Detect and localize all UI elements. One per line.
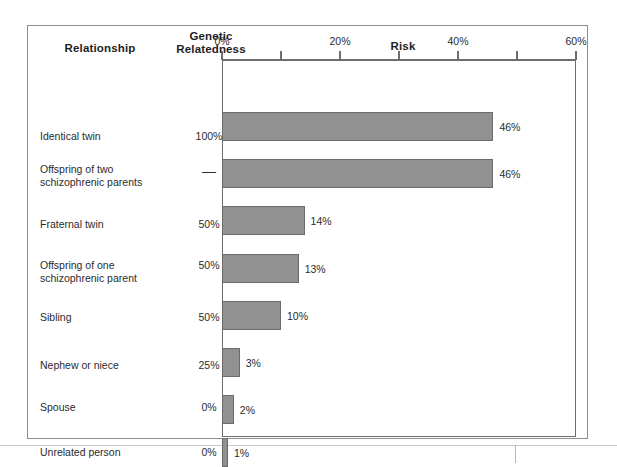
bar xyxy=(222,254,299,283)
x-axis-tick-label: 20% xyxy=(329,35,350,47)
bar-value-label: 2% xyxy=(240,404,255,416)
bar-value-label: 10% xyxy=(287,310,308,322)
bar xyxy=(222,206,305,235)
column-header-relationship: Relationship xyxy=(40,42,160,55)
bar xyxy=(222,159,493,188)
bar-value-label: 13% xyxy=(305,263,326,275)
column-header-genetic-relatedness: Genetic Relatedness xyxy=(156,30,266,56)
bar-value-label: 3% xyxy=(246,357,261,369)
bar xyxy=(222,438,228,467)
figure-frame: Relationship Genetic Relatedness Risk 0%… xyxy=(27,25,588,439)
row-label-line2: schizophrenic parent xyxy=(40,272,190,285)
column-header-genetic-line1: Genetic xyxy=(156,30,266,43)
column-header-risk: Risk xyxy=(358,40,448,53)
bar-value-label: 46% xyxy=(499,168,520,180)
x-axis-tick-label: 40% xyxy=(447,35,468,47)
bar xyxy=(222,348,240,377)
bar-value-label: 46% xyxy=(499,121,520,133)
column-header-genetic-line2: Relatedness xyxy=(156,43,266,56)
bar xyxy=(222,112,493,141)
bar-value-label: 14% xyxy=(311,215,332,227)
x-axis-tick-label: 0% xyxy=(214,35,229,47)
bar xyxy=(222,301,281,330)
bar xyxy=(222,395,234,424)
bar-value-label: 1% xyxy=(234,447,249,459)
x-axis-tick-label: 60% xyxy=(565,35,586,47)
scan-artifact-vertical-line xyxy=(515,445,516,463)
